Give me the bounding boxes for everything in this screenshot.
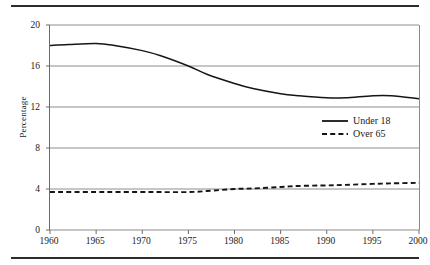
series-line-over-65: [50, 183, 419, 192]
x-tick-label-1980: 1980: [214, 236, 254, 247]
solid-line-swatch-icon: [322, 116, 348, 126]
legend-entry-under-18: Under 18: [322, 114, 418, 127]
legend-label-under-18: Under 18: [353, 115, 391, 126]
x-tick-label-1990: 1990: [306, 236, 346, 247]
bottom-horizontal-rule: [11, 257, 419, 259]
x-tick-label-1960: 1960: [29, 236, 69, 247]
legend-label-over-65: Over 65: [353, 128, 386, 139]
x-tick-label-2000: 2000: [398, 236, 430, 247]
line-chart-figure: Percentage 048121620 1960196519701975198…: [0, 14, 430, 254]
dashed-line-swatch-icon: [322, 129, 348, 139]
x-tick-label-1975: 1975: [167, 236, 207, 247]
x-tick-label-1970: 1970: [121, 236, 161, 247]
series-line-under-18: [50, 43, 419, 98]
x-tick-label-1995: 1995: [352, 236, 392, 247]
x-tick-label-1965: 1965: [75, 236, 115, 247]
chart-legend: Under 18 Over 65: [322, 114, 418, 140]
top-horizontal-rule: [11, 5, 419, 7]
legend-entry-over-65: Over 65: [322, 127, 418, 140]
x-tick-label-1985: 1985: [260, 236, 300, 247]
